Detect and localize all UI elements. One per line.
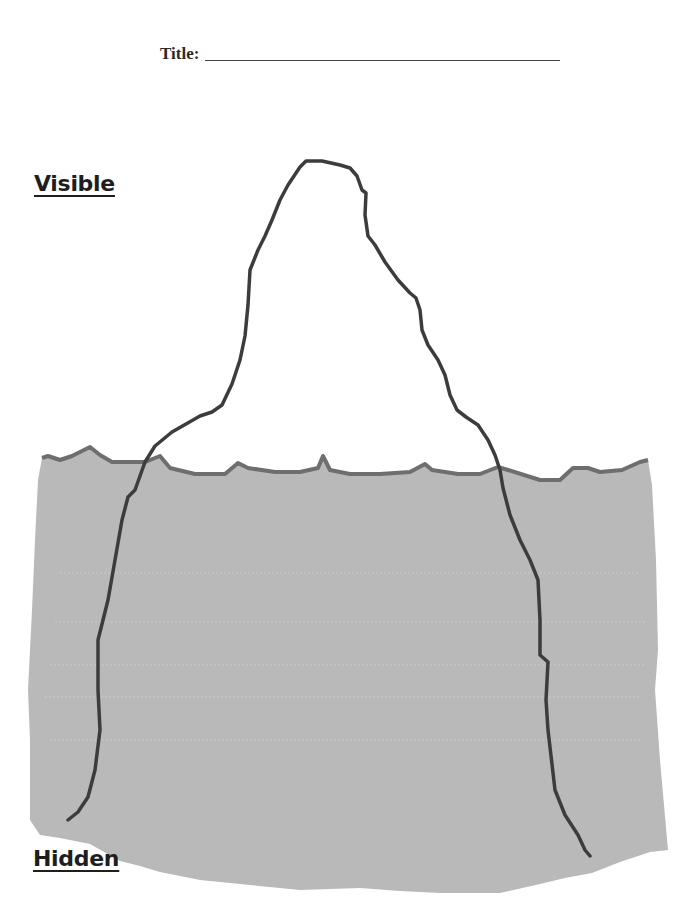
visible-section-label: Visible bbox=[34, 171, 115, 196]
iceberg-diagram bbox=[0, 0, 695, 911]
hidden-section-label: Hidden bbox=[33, 846, 119, 871]
